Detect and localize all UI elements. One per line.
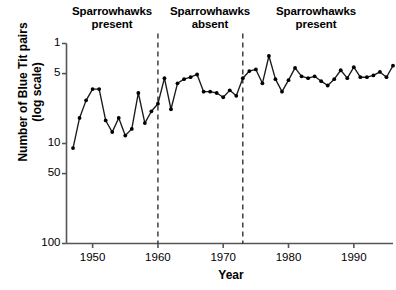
y-tick-label: 50 [29,166,61,178]
data-series-line [73,56,393,148]
data-point-marker [293,66,297,70]
x-tick-label: 1980 [267,251,311,263]
data-point-marker [97,87,101,91]
data-point-marker [176,81,180,85]
data-point-marker [189,75,193,79]
data-point-marker [319,79,323,83]
blue-tit-population-figure: Sparrowhawks present Sparrowhawks absent… [0,0,396,290]
data-point-marker [378,70,382,74]
series-line-blue-tit-pairs [73,56,393,148]
data-point-marker [332,77,336,81]
x-tick-label: 1970 [201,251,245,263]
data-point-marker [117,116,121,120]
data-point-marker [110,130,114,134]
data-point-marker [385,75,389,79]
y-tick-label: 5 [29,66,61,78]
data-point-marker [130,127,134,131]
data-point-marker [156,102,160,106]
data-point-marker [215,91,219,95]
data-point-marker [149,109,153,113]
y-tick-label: 1 [29,36,61,48]
data-point-marker [300,74,304,78]
data-point-marker [313,74,317,78]
tick-marks [62,44,354,249]
data-point-marker [182,77,186,81]
data-point-marker [208,90,212,94]
data-point-marker [71,146,75,150]
data-point-marker [234,94,238,98]
data-point-marker [241,76,245,80]
data-point-marker [104,119,108,123]
data-point-marker [228,88,232,92]
data-point-marker [326,84,330,88]
data-point-marker [123,134,127,138]
data-point-marker [391,64,395,68]
data-point-marker [365,75,369,79]
y-tick-label: 100 [29,236,61,248]
region-divider-lines [158,34,243,244]
data-point-marker [306,76,310,80]
data-point-marker [195,73,199,77]
x-tick-label: 1960 [136,251,180,263]
data-point-marker [163,76,167,80]
data-point-markers [71,54,395,150]
data-point-marker [202,90,206,94]
data-point-marker [345,76,349,80]
data-point-marker [221,95,225,99]
data-point-marker [339,68,343,72]
data-point-marker [143,121,147,125]
x-tick-label: 1990 [332,251,376,263]
data-point-marker [136,91,140,95]
data-point-marker [267,54,271,58]
data-point-marker [358,75,362,79]
data-point-marker [78,116,82,120]
data-point-marker [91,87,95,91]
data-point-marker [84,98,88,102]
data-point-marker [261,81,265,85]
data-point-marker [280,90,284,94]
x-tick-label: 1950 [71,251,115,263]
data-point-marker [287,78,291,82]
data-point-marker [169,107,173,111]
data-point-marker [352,65,356,69]
y-tick-label: 10 [29,136,61,148]
data-point-marker [274,77,278,81]
data-point-marker [372,73,376,77]
data-point-marker [247,69,251,73]
data-point-marker [254,68,258,72]
